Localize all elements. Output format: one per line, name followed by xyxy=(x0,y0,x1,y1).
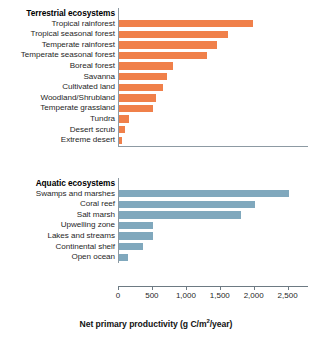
bar-row: Tundra xyxy=(0,114,312,125)
x-axis-line xyxy=(118,286,308,287)
terrestrial-rows: Terrestrial ecosystems Tropical rainfore… xyxy=(0,8,312,146)
bar-row: Woodland/Shrubland xyxy=(0,93,312,104)
bar-row: Open ocean xyxy=(0,252,312,263)
x-tick-label: 1,000 xyxy=(176,291,196,300)
bar-tropical-rainforest xyxy=(119,20,253,27)
category-label: Cultivated land xyxy=(0,82,118,93)
bar-row: Lakes and streams xyxy=(0,231,312,242)
category-label: Extreme desert xyxy=(0,135,118,146)
category-label: Salt marsh xyxy=(0,210,118,221)
category-label: Desert scrub xyxy=(0,125,118,136)
bar-salt-marsh xyxy=(119,211,241,218)
bar-track xyxy=(118,231,312,242)
x-tick-2000 xyxy=(254,286,255,290)
panel-terrestrial-ecosystems: Terrestrial ecosystems Tropical rainfore… xyxy=(0,8,312,146)
bar-track xyxy=(118,93,312,104)
bar-cultivated-land xyxy=(119,84,163,91)
bar-track xyxy=(118,19,312,30)
bar-extreme-desert xyxy=(119,137,122,144)
bar-row: Cultivated land xyxy=(0,82,312,93)
category-label: Temperate grassland xyxy=(0,103,118,114)
x-tick-1000 xyxy=(186,286,187,290)
bar-row: Extreme desert xyxy=(0,135,312,146)
bar-track xyxy=(118,50,312,61)
terrestrial-panel-baseline xyxy=(118,146,308,147)
bar-lakes-and-streams xyxy=(119,232,153,239)
bar-track xyxy=(118,61,312,72)
bar-track xyxy=(118,40,312,51)
bar-row: Savanna xyxy=(0,72,312,83)
bar-track xyxy=(118,242,312,253)
bar-track xyxy=(118,199,312,210)
group-header-row-aquatic: Aquatic ecosystems xyxy=(0,178,312,189)
category-label: Upwelling zone xyxy=(0,220,118,231)
bar-row: Tropical seasonal forest xyxy=(0,29,312,40)
category-label: Savanna xyxy=(0,72,118,83)
axis-gutter xyxy=(118,178,312,189)
aquatic-rows: Aquatic ecosystems Swamps and marshes Co… xyxy=(0,178,312,263)
bar-track xyxy=(118,125,312,136)
category-label: Tundra xyxy=(0,114,118,125)
x-tick-0 xyxy=(118,286,119,290)
panel-aquatic-ecosystems: Aquatic ecosystems Swamps and marshes Co… xyxy=(0,178,312,263)
x-axis-title: Net primary productivity (g C/m2/year) xyxy=(0,318,312,329)
category-label: Swamps and marshes xyxy=(0,189,118,200)
bar-swamps-and-marshes xyxy=(119,190,289,197)
category-label: Coral reef xyxy=(0,199,118,210)
x-tick-1500 xyxy=(220,286,221,290)
bar-track xyxy=(118,114,312,125)
x-axis-title-tail: /year) xyxy=(210,319,233,329)
bar-row: Temperate grassland xyxy=(0,103,312,114)
bar-temperate-rainforest xyxy=(119,41,217,48)
bar-row: Tropical rainforest xyxy=(0,19,312,30)
bar-temperate-seasonal-forest xyxy=(119,52,207,59)
x-tick-label: 1,500 xyxy=(210,291,230,300)
category-label: Temperate seasonal forest xyxy=(0,50,118,61)
category-label: Open ocean xyxy=(0,252,118,263)
bar-track xyxy=(118,103,312,114)
bar-row: Desert scrub xyxy=(0,125,312,136)
bar-track xyxy=(118,82,312,93)
category-label: Lakes and streams xyxy=(0,231,118,242)
bar-continental-shelf xyxy=(119,243,143,250)
bar-tundra xyxy=(119,115,129,122)
bar-boreal-forest xyxy=(119,62,173,69)
x-tick-500 xyxy=(152,286,153,290)
bar-track xyxy=(118,252,312,263)
bar-track xyxy=(118,72,312,83)
category-label: Tropical seasonal forest xyxy=(0,29,118,40)
x-tick-label: 2,000 xyxy=(244,291,264,300)
bar-row: Swamps and marshes xyxy=(0,189,312,200)
bar-row: Upwelling zone xyxy=(0,220,312,231)
bar-row: Salt marsh xyxy=(0,210,312,221)
bar-track xyxy=(118,29,312,40)
x-axis-title-main: Net primary productivity (g C/m xyxy=(80,319,207,329)
x-tick-label: 2,500 xyxy=(278,291,298,300)
bar-desert-scrub xyxy=(119,126,125,133)
bar-savanna xyxy=(119,73,167,80)
x-tick-2500 xyxy=(288,286,289,290)
group-header-row-terrestrial: Terrestrial ecosystems xyxy=(0,8,312,19)
bar-track xyxy=(118,135,312,146)
bar-row: Coral reef xyxy=(0,199,312,210)
bar-track xyxy=(118,210,312,221)
group-label-aquatic: Aquatic ecosystems xyxy=(0,178,118,189)
bar-tropical-seasonal-forest xyxy=(119,31,228,38)
x-tick-label: 0 xyxy=(116,291,120,300)
x-tick-label: 500 xyxy=(145,291,158,300)
axis-gutter xyxy=(118,8,312,19)
category-label: Temperate rainforest xyxy=(0,40,118,51)
group-label-terrestrial: Terrestrial ecosystems xyxy=(0,8,118,19)
bar-coral-reef xyxy=(119,201,255,208)
bar-open-ocean xyxy=(119,254,128,261)
bar-row: Temperate rainforest xyxy=(0,40,312,51)
bar-temperate-grassland xyxy=(119,105,153,112)
bar-row: Boreal forest xyxy=(0,61,312,72)
category-label: Tropical rainforest xyxy=(0,19,118,30)
category-label: Boreal forest xyxy=(0,61,118,72)
bar-woodland-shrubland xyxy=(119,94,156,101)
bar-row: Continental shelf xyxy=(0,242,312,253)
npp-bar-chart: Terrestrial ecosystems Tropical rainfore… xyxy=(0,0,312,339)
category-label: Continental shelf xyxy=(0,242,118,253)
bar-track xyxy=(118,220,312,231)
